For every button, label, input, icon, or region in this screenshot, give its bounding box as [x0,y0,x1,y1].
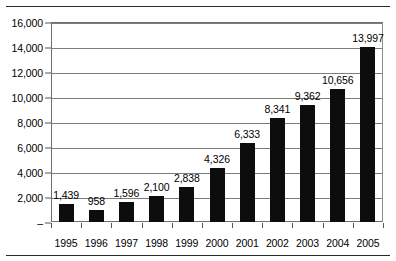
x-axis-tick-mark [232,223,233,228]
y-axis-tick-label: 4,000 [17,167,43,179]
y-axis: 16,00014,00012,00010,0008,0006,0004,0002… [0,22,51,223]
x-axis-tick-label: 2005 [356,237,379,249]
x-axis-tick-mark [323,223,324,228]
top-divider-rule [6,6,390,7]
x-axis-tick-mark [292,223,293,228]
y-axis-tick-label: 16,000 [11,17,43,29]
x-axis-tick-label: 2001 [236,237,259,249]
bottom-divider-rule [6,255,390,256]
y-axis-tick-label: 10,000 [11,92,43,104]
gridline [52,98,382,99]
y-axis-tick-label: 2,000 [17,192,43,204]
gridline [52,173,382,174]
x-axis-tick-mark [383,223,384,228]
y-axis-tick-label: 8,000 [17,117,43,129]
x-axis-tick-label: 1999 [175,237,198,249]
x-axis-tick-mark [172,223,173,228]
y-axis-tick-label: – [37,217,43,229]
x-axis-tick-label: 2004 [326,237,349,249]
gridline [52,123,382,124]
gridline [52,23,382,24]
y-axis-tick-label: 14,000 [11,42,43,54]
x-axis-tick-label: 2003 [296,237,319,249]
bar-chart-figure: 16,00014,00012,00010,0008,0006,0004,0002… [0,0,396,261]
x-axis-tick-label: 1997 [115,237,138,249]
x-axis-tick-mark [353,223,354,228]
x-axis-tick-label: 1998 [145,237,168,249]
x-axis-tick-mark [262,223,263,228]
plot-area [51,22,383,222]
x-axis: 1995199619971998199920002001200220032004… [51,223,383,253]
y-axis-tick-label: 12,000 [11,67,43,79]
gridline [52,73,382,74]
x-axis-tick-mark [81,223,82,228]
x-axis-tick-mark [111,223,112,228]
gridline [52,148,382,149]
gridline [52,198,382,199]
x-axis-tick-mark [51,223,52,228]
x-axis-tick-mark [202,223,203,228]
y-axis-tick-label: 6,000 [17,142,43,154]
gridline [52,48,382,49]
x-axis-tick-label: 1996 [85,237,108,249]
x-axis-tick-mark [142,223,143,228]
x-axis-tick-label: 1995 [55,237,78,249]
x-axis-tick-label: 2000 [206,237,229,249]
x-axis-tick-label: 2002 [266,237,289,249]
